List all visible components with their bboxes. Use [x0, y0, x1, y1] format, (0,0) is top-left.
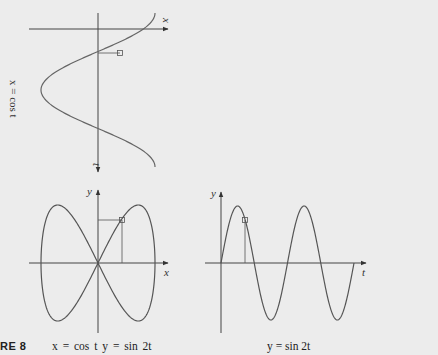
right-t-axis-label: t	[362, 266, 366, 278]
top-t-axis-label: t	[91, 163, 103, 167]
right-panel: t y	[205, 187, 366, 333]
right-y-axis-label: y	[210, 187, 216, 199]
left-y-axis-label: y	[86, 185, 92, 197]
left-caption: x = cos t y = sin 2t	[52, 340, 152, 352]
right-caption: y = sin 2t	[267, 340, 310, 352]
top-panel: x t	[29, 13, 173, 172]
left-x-axis-label: x	[163, 266, 169, 278]
top-panel-side-label: x = cos t	[8, 80, 20, 118]
left-panel: x y	[29, 185, 169, 333]
figure-canvas: x t x y t y	[0, 0, 438, 355]
figure-number: RE 8	[0, 340, 26, 352]
top-x-axis-label: x	[161, 17, 173, 23]
